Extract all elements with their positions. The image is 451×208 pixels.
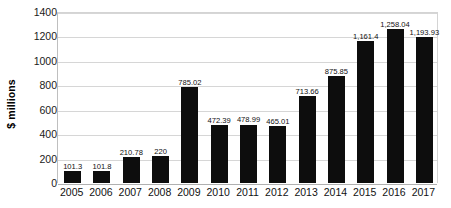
bar-value-label: 210.78 — [120, 148, 143, 157]
bar-value-label: 1,258.04 — [380, 20, 410, 29]
x-tick-label: 2006 — [89, 186, 112, 198]
bar-value-label: 875.85 — [325, 67, 348, 76]
bar — [299, 96, 316, 183]
bar — [387, 29, 404, 183]
bar-value-label: 101.3 — [63, 162, 82, 171]
y-axis-ticks: 0200400600800100012001400 — [0, 0, 57, 208]
gridline — [58, 13, 437, 14]
x-tick-label: 2005 — [60, 186, 83, 198]
bar-value-label: 472.39 — [208, 116, 231, 125]
bar — [152, 156, 169, 183]
bar — [357, 41, 374, 183]
bar — [328, 76, 345, 183]
x-tick-label: 2011 — [236, 186, 259, 198]
x-tick-label: 2013 — [294, 186, 317, 198]
gridline — [58, 37, 437, 38]
gridline — [58, 86, 437, 87]
bar-value-label: 220 — [154, 147, 167, 156]
x-tick-label: 2017 — [412, 186, 435, 198]
gridline — [58, 184, 437, 185]
plot-area: 101.3101.8210.78220785.02472.39478.99465… — [57, 12, 438, 183]
x-tick-label: 2008 — [148, 186, 171, 198]
bar-value-label: 101.8 — [92, 162, 111, 171]
x-tick-label: 2015 — [353, 186, 376, 198]
bar — [93, 171, 110, 183]
x-tick-label: 2016 — [382, 186, 405, 198]
bar-value-label: 1,193.93 — [410, 28, 440, 37]
y-tick-label: 0 — [5, 177, 57, 189]
bar-value-label: 785.02 — [178, 78, 201, 87]
x-tick-label: 2010 — [207, 186, 230, 198]
bar — [416, 37, 433, 183]
x-tick-label: 2009 — [177, 186, 200, 198]
y-tick-label: 200 — [5, 153, 57, 165]
bar — [269, 126, 286, 183]
x-tick-label: 2007 — [119, 186, 142, 198]
y-tick-label: 1200 — [5, 30, 57, 42]
bar — [240, 125, 257, 184]
y-tick-label: 1400 — [5, 6, 57, 18]
bar-value-label: 478.99 — [237, 115, 260, 124]
bar-value-label: 713.66 — [295, 87, 318, 96]
x-tick-label: 2014 — [324, 186, 347, 198]
y-tick-label: 600 — [5, 104, 57, 116]
x-tick-label: 2012 — [265, 186, 288, 198]
bar-value-label: 465.01 — [266, 117, 289, 126]
y-tick-label: 800 — [5, 79, 57, 91]
y-tick-label: 1000 — [5, 55, 57, 67]
gridline — [58, 111, 437, 112]
bar — [123, 157, 140, 183]
bar-value-label: 1,161.4 — [353, 32, 378, 41]
bar — [211, 125, 228, 183]
gridline — [58, 62, 437, 63]
bar-chart: $ millions 0200400600800100012001400 101… — [0, 0, 451, 208]
y-tick-label: 400 — [5, 128, 57, 140]
bar — [181, 87, 198, 183]
bar — [64, 171, 81, 183]
